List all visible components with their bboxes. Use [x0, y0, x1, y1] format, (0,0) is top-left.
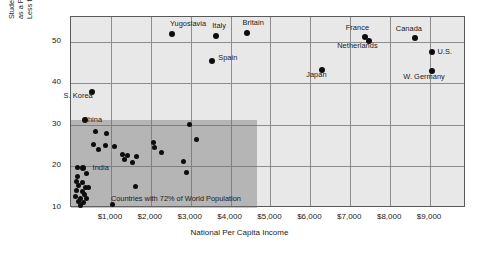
point-label-u-s: U.S. [437, 47, 452, 56]
data-point [181, 159, 186, 164]
x-tick-label: $2,000 [138, 212, 162, 221]
y-axis-title-line-1: Students Enrolled in Secondary School [7, 0, 16, 19]
point-label-netherlands: Netherlands [337, 41, 377, 50]
data-point-spain [209, 58, 215, 64]
data-point-canada [412, 35, 418, 41]
x-tick-label: $5,000 [257, 212, 281, 221]
point-label-spain: Spain [218, 53, 237, 62]
point-label-yugoslavia: Yugoslavia [170, 19, 206, 28]
point-label-france: France [346, 23, 369, 32]
point-label-india: India [93, 163, 109, 172]
y-tick-label: 20 [52, 160, 61, 169]
gridline-vertical [270, 17, 271, 206]
point-label-italy: Italy [212, 21, 226, 30]
data-point [159, 150, 164, 155]
y-tick-label: 10 [52, 202, 61, 211]
gridline-vertical [390, 17, 391, 206]
data-point-u-s [429, 49, 435, 55]
data-point [75, 174, 80, 179]
data-point-yugoslavia [169, 31, 175, 37]
y-tick-label: 50 [52, 36, 61, 45]
data-point [112, 144, 117, 149]
gridline-horizontal [71, 42, 464, 43]
y-axis-title-line-3: Less that 15 Years Old [25, 0, 34, 19]
gridline-horizontal [71, 83, 464, 84]
y-axis-title: Students Enrolled in Secondary School as… [8, 10, 48, 200]
plot-area: YugoslaviaItalyBritainSpainS. KoreaJapan… [70, 16, 465, 207]
point-label-s-korea: S. Korea [64, 91, 93, 100]
data-point [86, 185, 91, 190]
y-tick-label: 30 [52, 119, 61, 128]
point-label-japan: Japan [306, 70, 326, 79]
scatter-chart-figure: Students Enrolled in Secondary School as… [0, 0, 480, 255]
y-axis-title-line-2: as a Percentage of All Children [16, 0, 25, 19]
gridline-vertical [430, 17, 431, 206]
point-label-britain: Britain [243, 18, 264, 27]
point-label-canada: Canada [396, 24, 422, 33]
x-tick-label: $9,000 [417, 212, 441, 221]
y-tick-label: 40 [52, 77, 61, 86]
data-point-india [80, 165, 86, 171]
x-tick-label: $3,000 [177, 212, 201, 221]
x-tick-label: $1,000 [98, 212, 122, 221]
x-tick-label: $8,000 [377, 212, 401, 221]
data-point-italy [213, 33, 219, 39]
data-point [134, 154, 139, 159]
x-axis-title: National Per Capita Income [191, 228, 289, 237]
data-point [184, 170, 189, 175]
x-tick-label: $4,000 [217, 212, 241, 221]
x-tick-label: $7,000 [337, 212, 361, 221]
region-annotation: Countries with 72% of World Population [111, 194, 241, 203]
gridline-vertical [310, 17, 311, 206]
point-label-w-germany: W. Germany [403, 72, 445, 81]
data-point-britain [244, 30, 250, 36]
x-tick-label: $6,000 [297, 212, 321, 221]
point-label-china: China [83, 115, 103, 124]
